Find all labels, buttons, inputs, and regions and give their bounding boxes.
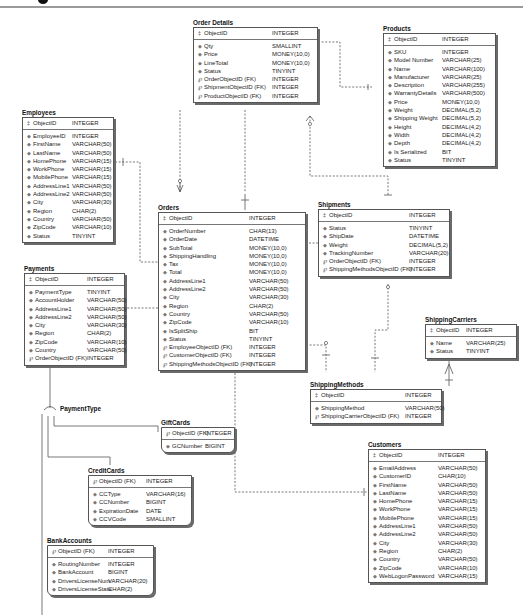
attribute-row[interactable]: ◆CityVARCHAR(30) bbox=[159, 293, 305, 301]
attribute-row[interactable]: ◆ExpirationDateDATE bbox=[89, 507, 191, 515]
attribute-row[interactable]: ◆WarrantyDetailsVARCHAR(500) bbox=[384, 89, 495, 97]
entity-credit-cards[interactable]: CreditCards℘ObjectID (FK)INTEGER◆CCTypeV… bbox=[88, 466, 192, 526]
entity-shipping-methods[interactable]: ShippingMethods‡ObjectIDINTEGER◆Shipping… bbox=[310, 380, 442, 424]
attribute-row[interactable]: ◆AddressLine2VARCHAR(50) bbox=[23, 190, 113, 198]
attribute-row[interactable]: ◆StatusTINYINT bbox=[194, 67, 317, 75]
attribute-row[interactable]: ◆ShippingHandlingMONEY(10,0) bbox=[159, 252, 305, 260]
entity-payments[interactable]: Payments‡ObjectIDINTEGER◆PaymentTypeTINY… bbox=[24, 264, 125, 366]
attribute-row[interactable]: ◆StatusTINYINT bbox=[384, 156, 495, 164]
attribute-row[interactable]: ◆CCNumberBIGINT bbox=[89, 498, 191, 506]
attribute-row[interactable]: ◆LastNameVARCHAR(50) bbox=[23, 149, 113, 157]
primary-key-row[interactable]: ‡ObjectIDINTEGER bbox=[319, 210, 449, 222]
entity-customers[interactable]: Customers‡ObjectIDINTEGER◆EmailAddressVA… bbox=[368, 440, 486, 583]
attribute-row[interactable]: ◆SKUINTEGER bbox=[384, 48, 495, 56]
attribute-row[interactable]: ◆CCTypeVARCHAR(16) bbox=[89, 490, 191, 498]
attribute-row[interactable]: ◆AddressLine2VARCHAR(50) bbox=[25, 313, 124, 321]
attribute-row[interactable]: ◆ZipCodeVARCHAR(10) bbox=[369, 564, 485, 572]
entity-bank-accounts[interactable]: BankAccounts℘ObjectID (FK)INTEGER◆Routin… bbox=[47, 536, 154, 596]
entity-employees[interactable]: Employees‡ObjectIDINTEGER◆EmployeeIDINTE… bbox=[22, 108, 114, 243]
attribute-row[interactable]: ◆BankAccountBIGINT bbox=[48, 568, 153, 576]
entity-products[interactable]: Products‡ObjectIDINTEGER◆SKUINTEGER◆Mode… bbox=[383, 24, 496, 167]
attribute-row[interactable]: ◆CountryVARCHAR(50) bbox=[23, 215, 113, 223]
attribute-row[interactable]: ◆TotalMONEY(10,0) bbox=[159, 268, 305, 276]
attribute-row[interactable]: ◆HomePhoneVARCHAR(15) bbox=[369, 497, 485, 505]
attribute-row[interactable]: ◆GCNumberBIGINT bbox=[162, 442, 234, 450]
attribute-row[interactable]: ◆RegionCHAR(2) bbox=[159, 302, 305, 310]
foreign-key-row[interactable]: ℘ShippingCarrierObjectID (FK)INTEGER bbox=[311, 412, 441, 420]
attribute-row[interactable]: ◆MobilePhoneVARCHAR(15) bbox=[23, 173, 113, 181]
attribute-row[interactable]: ◆AddressLine1VARCHAR(50) bbox=[369, 522, 485, 530]
attribute-row[interactable]: ◆IsSplitShipBIT bbox=[159, 327, 305, 335]
foreign-key-row[interactable]: ℘OrderObjectID (FK)INTEGER bbox=[319, 257, 449, 265]
entity-shipments[interactable]: Shipments‡ObjectIDINTEGER◆StatusTINYINT◆… bbox=[318, 200, 450, 277]
attribute-row[interactable]: ◆CountryVARCHAR(50) bbox=[369, 555, 485, 563]
attribute-row[interactable]: ◆Model NumberVARCHAR(25) bbox=[384, 56, 495, 64]
attribute-row[interactable]: ◆EmailAddressVARCHAR(50) bbox=[369, 464, 485, 472]
attribute-row[interactable]: ◆DescriptionVARCHAR(255) bbox=[384, 81, 495, 89]
attribute-row[interactable]: ◆ShippingMethodVARCHAR(50) bbox=[311, 404, 441, 412]
foreign-key-row[interactable]: ℘EmployeeObjectID (FK)INTEGER bbox=[159, 343, 305, 351]
attribute-row[interactable]: ◆WeightDECIMAL(5,2) bbox=[319, 241, 449, 249]
attribute-row[interactable]: ◆HeightDECIMAL(4,2) bbox=[384, 123, 495, 131]
foreign-key-row[interactable]: ℘CustomerObjectID (FK)INTEGER bbox=[159, 351, 305, 359]
attribute-row[interactable]: ◆HomePhoneVARCHAR(15) bbox=[23, 157, 113, 165]
primary-key-row[interactable]: ℘ObjectID (FK)INTEGER bbox=[162, 428, 234, 440]
entity-shipping-carriers[interactable]: ShippingCarriers‡ObjectIDINTEGER◆NameVAR… bbox=[425, 315, 517, 359]
foreign-key-row[interactable]: ℘ShippingMethodsObjectID (FK)INTEGER bbox=[319, 265, 449, 273]
attribute-row[interactable]: ◆AddressLine2VARCHAR(50) bbox=[159, 285, 305, 293]
attribute-row[interactable]: ◆OrderNumberCHAR(13) bbox=[159, 227, 305, 235]
attribute-row[interactable]: ◆ZipCodeVARCHAR(10) bbox=[159, 318, 305, 326]
primary-key-row[interactable]: ‡ObjectIDINTEGER bbox=[23, 118, 113, 130]
attribute-row[interactable]: ◆CityVARCHAR(30) bbox=[25, 321, 124, 329]
attribute-row[interactable]: ◆StatusTINYINT bbox=[319, 224, 449, 232]
attribute-row[interactable]: ◆CityVARCHAR(30) bbox=[23, 198, 113, 206]
primary-key-row[interactable]: ‡ObjectIDINTEGER bbox=[194, 28, 317, 40]
entity-orders[interactable]: Orders‡ObjectIDINTEGER◆OrderNumberCHAR(1… bbox=[158, 203, 306, 371]
entity-gift-cards[interactable]: GiftCards℘ObjectID (FK)INTEGER◆GCNumberB… bbox=[161, 418, 235, 453]
attribute-row[interactable]: ◆ManufacturerVARCHAR(25) bbox=[384, 73, 495, 81]
attribute-row[interactable]: ◆TrackingNumberVARCHAR(20) bbox=[319, 249, 449, 257]
attribute-row[interactable]: ◆StatusTINYINT bbox=[159, 335, 305, 343]
attribute-row[interactable]: ◆ShipDateDATETIME bbox=[319, 232, 449, 240]
attribute-row[interactable]: ◆PriceMONEY(10,0) bbox=[194, 50, 317, 58]
attribute-row[interactable]: ◆Shipping WeightDECIMAL(5,2) bbox=[384, 114, 495, 122]
attribute-row[interactable]: ◆CityVARCHAR(30) bbox=[369, 539, 485, 547]
foreign-key-row[interactable]: ℘ShipmentObjectID (FK)INTEGER bbox=[194, 83, 317, 91]
attribute-row[interactable]: ◆FirstNameVARCHAR(50) bbox=[369, 481, 485, 489]
attribute-row[interactable]: ◆PaymentTypeTINYINT bbox=[25, 288, 124, 296]
primary-key-row[interactable]: ‡ObjectIDINTEGER bbox=[384, 34, 495, 46]
primary-key-row[interactable]: ‡ObjectIDINTEGER bbox=[311, 390, 441, 402]
attribute-row[interactable]: ◆WebLogonPasswordVARCHAR(15) bbox=[369, 572, 485, 580]
attribute-row[interactable]: ◆TaxMONEY(10,0) bbox=[159, 260, 305, 268]
foreign-key-row[interactable]: ℘OrderObjectID (FK)INTEGER bbox=[194, 75, 317, 83]
attribute-row[interactable]: ◆ZipCodeVARCHAR(10) bbox=[25, 338, 124, 346]
attribute-row[interactable]: ◆CCVCodeSMALLINT bbox=[89, 515, 191, 523]
attribute-row[interactable]: ◆DriversLicenseStateCHAR(2) bbox=[48, 585, 153, 593]
primary-key-row[interactable]: ℘ObjectID (FK)INTEGER bbox=[48, 546, 153, 558]
attribute-row[interactable]: ◆WidthDECIMAL(4,2) bbox=[384, 131, 495, 139]
attribute-row[interactable]: ◆EmployeeIDINTEGER bbox=[23, 132, 113, 140]
attribute-row[interactable]: ◆CustomerIDCHAR(10) bbox=[369, 472, 485, 480]
attribute-row[interactable]: ◆MobilePhoneVARCHAR(15) bbox=[369, 514, 485, 522]
attribute-row[interactable]: ◆CountryVARCHAR(50) bbox=[25, 346, 124, 354]
attribute-row[interactable]: ◆RegionCHAR(2) bbox=[25, 329, 124, 337]
attribute-row[interactable]: ◆RoutingNumberINTEGER bbox=[48, 560, 153, 568]
attribute-row[interactable]: ◆LineTotalMONEY(10,0) bbox=[194, 59, 317, 67]
primary-key-row[interactable]: ‡ObjectIDINTEGER bbox=[159, 213, 305, 225]
attribute-row[interactable]: ◆ZipCodeVARCHAR(10) bbox=[23, 223, 113, 231]
attribute-row[interactable]: ◆WeightDECIMAL(5,2) bbox=[384, 106, 495, 114]
attribute-row[interactable]: ◆StatusTINYINT bbox=[23, 232, 113, 240]
entity-order-details[interactable]: Order Details‡ObjectIDINTEGER◆QtySMALLIN… bbox=[193, 18, 318, 103]
attribute-row[interactable]: ◆Is SerializedBIT bbox=[384, 148, 495, 156]
attribute-row[interactable]: ◆NameVARCHAR(25) bbox=[426, 339, 516, 347]
attribute-row[interactable]: ◆DriversLicenseNumVARCHAR(20) bbox=[48, 577, 153, 585]
attribute-row[interactable]: ◆RegionCHAR(2) bbox=[23, 207, 113, 215]
attribute-row[interactable]: ◆NameVARCHAR(100) bbox=[384, 65, 495, 73]
foreign-key-row[interactable]: ℘ProductObjectID (FK)INTEGER bbox=[194, 92, 317, 100]
attribute-row[interactable]: ◆AddressLine1VARCHAR(50) bbox=[23, 182, 113, 190]
attribute-row[interactable]: ◆LastNameVARCHAR(50) bbox=[369, 489, 485, 497]
primary-key-row[interactable]: ℘ObjectID (FK)INTEGER bbox=[89, 476, 191, 488]
foreign-key-row[interactable]: ℘ShippingMethodsObjectID (FK)INTEGER bbox=[159, 360, 305, 368]
attribute-row[interactable]: ◆WorkPhoneVARCHAR(15) bbox=[23, 165, 113, 173]
attribute-row[interactable]: ◆SubTotalMONEY(10,0) bbox=[159, 244, 305, 252]
